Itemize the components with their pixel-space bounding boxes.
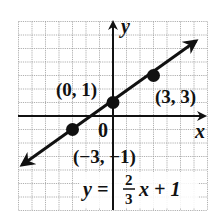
equation-rhs: x + 1	[138, 178, 180, 200]
equation-denominator: 3	[125, 191, 133, 207]
origin-label: 0	[98, 119, 108, 141]
point-label-neg3-neg1: (−3, −1)	[73, 146, 136, 168]
equation-label: y = 2 3 x + 1	[80, 172, 198, 210]
equation-lhs: y =	[81, 178, 108, 201]
x-axis-label: x	[194, 120, 205, 142]
data-point	[66, 123, 79, 136]
point-label-3-3: (3, 3)	[155, 86, 196, 108]
equation-numerator: 2	[125, 172, 133, 188]
data-point	[107, 96, 120, 109]
y-axis-label: y	[119, 15, 130, 38]
data-point	[147, 69, 160, 82]
line-graph: y x 0 (0, 1) (3, 3) (−3, −1) y = 2 3 x +…	[0, 0, 214, 216]
point-label-0-1: (0, 1)	[56, 79, 97, 101]
